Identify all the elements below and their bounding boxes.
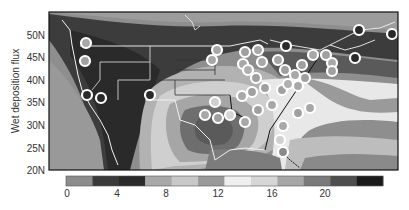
station-marker bbox=[210, 97, 220, 107]
station-marker bbox=[280, 65, 290, 75]
station-marker bbox=[96, 93, 106, 103]
colorbar-bin bbox=[330, 176, 357, 186]
colorbar: 0 4 8 12 16 20 bbox=[64, 176, 383, 199]
station-marker bbox=[240, 117, 250, 127]
station-marker bbox=[297, 60, 307, 70]
deposition-map-figure: Wet deposition flux 50N 45N 40N 35N 30N … bbox=[0, 0, 409, 210]
station-marker bbox=[243, 65, 253, 75]
station-marker bbox=[207, 55, 217, 65]
station-marker bbox=[290, 70, 300, 80]
station-marker bbox=[308, 50, 318, 60]
station-marker bbox=[278, 121, 288, 131]
y-tick-40n: 40N bbox=[27, 75, 45, 86]
station-marker bbox=[273, 55, 283, 65]
deposition-field bbox=[49, 12, 398, 170]
y-tick-20n: 20N bbox=[27, 165, 45, 176]
colorbar-bin bbox=[119, 176, 146, 186]
colorbar-bin bbox=[66, 176, 93, 186]
y-axis-label: Wet deposition flux bbox=[10, 49, 21, 133]
colorbar-bin bbox=[277, 176, 304, 186]
station-marker bbox=[251, 73, 261, 83]
station-marker bbox=[387, 29, 397, 39]
station-marker bbox=[247, 87, 257, 97]
station-marker bbox=[253, 45, 263, 55]
colorbar-label-12: 12 bbox=[212, 188, 224, 199]
colorbar-bin bbox=[357, 176, 384, 186]
station-marker bbox=[82, 90, 92, 100]
station-marker bbox=[240, 47, 250, 57]
colorbar-label-16: 16 bbox=[266, 188, 278, 199]
colorbar-bin bbox=[251, 176, 278, 186]
y-tick-35n: 35N bbox=[27, 97, 45, 108]
colorbar-bin bbox=[304, 176, 331, 186]
station-marker bbox=[275, 135, 285, 145]
colorbar-label-4: 4 bbox=[114, 188, 120, 199]
station-marker bbox=[354, 25, 364, 35]
colorbar-bin bbox=[92, 176, 119, 186]
station-marker bbox=[267, 100, 277, 110]
station-marker bbox=[200, 110, 210, 120]
colorbar-label-0: 0 bbox=[64, 188, 70, 199]
station-marker bbox=[327, 66, 337, 76]
colorbar-bin bbox=[225, 176, 252, 186]
colorbar-label-8: 8 bbox=[163, 188, 169, 199]
y-tick-25n: 25N bbox=[27, 143, 45, 154]
station-marker bbox=[213, 113, 223, 123]
station-marker bbox=[260, 83, 270, 93]
station-marker bbox=[237, 91, 247, 101]
station-marker bbox=[281, 41, 291, 51]
station-marker bbox=[145, 90, 155, 100]
station-marker bbox=[278, 147, 288, 157]
colorbar-label-20: 20 bbox=[319, 188, 331, 199]
station-marker bbox=[81, 38, 91, 48]
station-marker bbox=[212, 45, 222, 55]
station-marker bbox=[350, 53, 360, 63]
colorbar-bin bbox=[145, 176, 172, 186]
colorbar-bin bbox=[198, 176, 225, 186]
station-marker bbox=[293, 108, 303, 118]
station-marker bbox=[225, 110, 235, 120]
station-marker bbox=[257, 57, 267, 67]
y-tick-30n: 30N bbox=[27, 120, 45, 131]
y-tick-45n: 45N bbox=[27, 52, 45, 63]
station-marker bbox=[253, 105, 263, 115]
station-marker bbox=[283, 79, 293, 89]
y-tick-50n: 50N bbox=[27, 30, 45, 41]
station-marker bbox=[300, 73, 310, 83]
station-marker bbox=[80, 56, 90, 66]
station-marker bbox=[305, 103, 315, 113]
colorbar-bin bbox=[172, 176, 199, 186]
